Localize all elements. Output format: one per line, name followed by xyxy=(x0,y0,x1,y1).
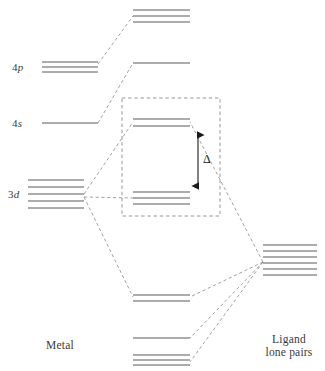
correlation-line-3d-to-eg-antibonding xyxy=(84,122,133,194)
mo-energy-diagram: 4p 4s 3d Δ Metal Ligand lone pairs xyxy=(0,0,325,371)
diagram-canvas xyxy=(0,0,325,371)
correlation-line-ligand-to-eg-antibonding xyxy=(190,122,263,262)
correlation-line-3d-to-eg-bonding xyxy=(84,197,133,297)
correlation-line-4p-to-t1u-antibonding xyxy=(98,16,133,64)
correlation-line-ligand-to-eg-bonding xyxy=(190,262,263,297)
ligand-label-line1: Ligand xyxy=(272,333,306,345)
correlation-line-ligand-to-t1u-bonding xyxy=(190,262,263,362)
metal-column-label: Metal xyxy=(46,339,74,352)
ligand-label-line2: lone pairs xyxy=(265,346,312,358)
correlation-lines-group xyxy=(84,16,263,362)
label-4s-subshell: s xyxy=(18,117,22,129)
ligand-column-label: Ligand lone pairs xyxy=(265,333,312,359)
label-4p-subshell: p xyxy=(18,61,24,73)
delta-splitting-label: Δ xyxy=(203,152,211,167)
orbital-label-4p: 4p xyxy=(12,61,23,73)
orbital-label-3d: 3d xyxy=(8,188,19,200)
energy-levels-group xyxy=(28,10,317,365)
correlation-line-4s-to-a1g-antibonding xyxy=(98,63,133,123)
label-3d-subshell: d xyxy=(14,188,20,200)
correlation-line-3d-to-t2g-nonbonding xyxy=(84,197,133,198)
orbital-label-4s: 4s xyxy=(12,117,22,129)
correlation-line-ligand-to-a1g-bonding xyxy=(190,262,263,338)
